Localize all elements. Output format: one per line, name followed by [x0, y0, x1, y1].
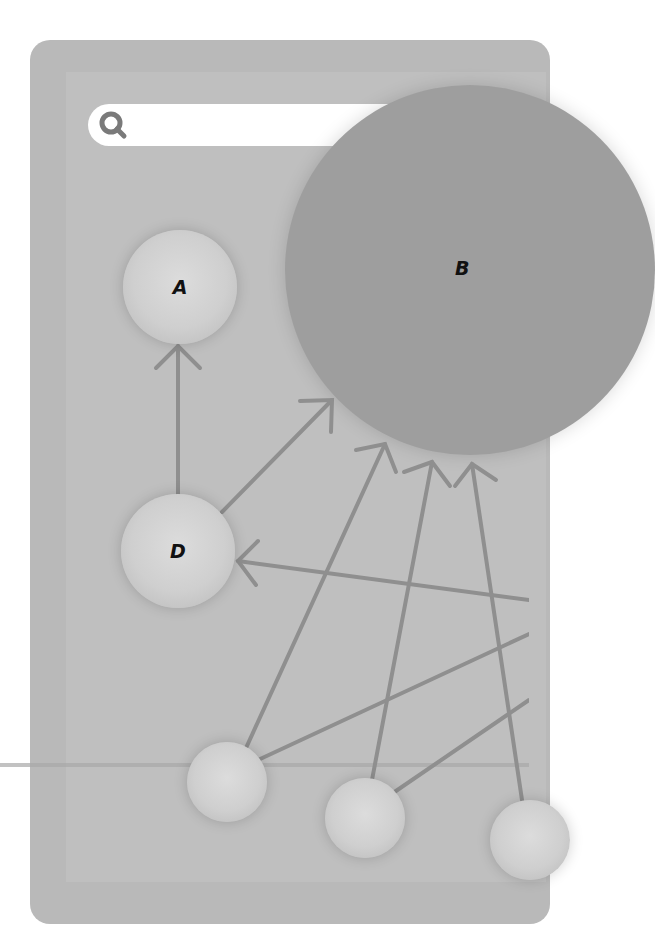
node-a-label: A	[173, 276, 188, 298]
node-unlabeled-3[interactable]	[490, 800, 570, 880]
node-a[interactable]: A	[123, 230, 237, 344]
node-unlabeled-2[interactable]	[325, 778, 405, 858]
edge-n2-b	[372, 462, 432, 780]
edge-d-b	[222, 400, 332, 512]
edge-n1-b	[246, 444, 385, 748]
edge-n1-right	[258, 634, 529, 760]
edge-n2-right	[393, 700, 529, 793]
node-d[interactable]: D	[121, 494, 235, 608]
edge-n3-b	[472, 464, 522, 800]
node-d-label: D	[170, 540, 186, 562]
node-unlabeled-1[interactable]	[187, 742, 267, 822]
